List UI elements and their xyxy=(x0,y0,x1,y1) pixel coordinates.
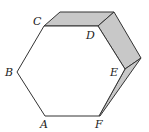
label-e: E xyxy=(109,66,118,79)
label-d: D xyxy=(85,29,95,42)
hexagon-diagram: A B C D E F xyxy=(0,0,149,132)
diagram-canvas: A B C D E F xyxy=(0,0,149,132)
label-b: B xyxy=(4,66,13,79)
label-c: C xyxy=(33,15,42,28)
label-f: F xyxy=(94,118,103,131)
label-a: A xyxy=(39,118,48,131)
